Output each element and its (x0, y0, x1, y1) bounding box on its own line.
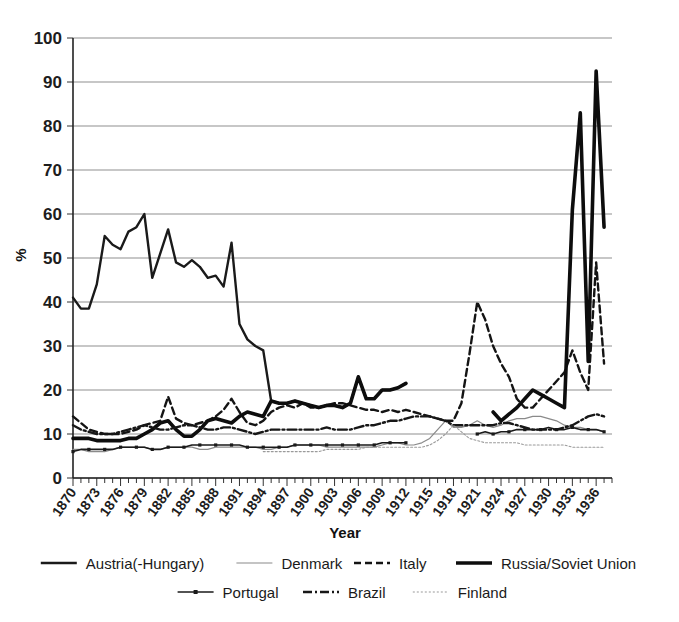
series-marker-portugal (293, 443, 296, 446)
y-tick-label-100: 100 (34, 29, 62, 48)
chart-container: 0102030405060708090100 18701873187618791… (0, 0, 679, 622)
legend-label-russia-soviet-union: Russia/Soviet Union (501, 555, 636, 572)
series-marker-portugal (214, 443, 217, 446)
series-marker-portugal (373, 443, 376, 446)
legend-label-denmark: Denmark (281, 555, 342, 572)
legend-label-portugal: Portugal (223, 584, 279, 601)
series-marker-portugal (325, 443, 328, 446)
series-marker-portugal (87, 448, 90, 451)
series-marker-portugal (119, 446, 122, 449)
legend-label-brazil: Brazil (348, 584, 386, 601)
series-marker-portugal (151, 448, 154, 451)
series-marker-portugal (507, 430, 510, 433)
series-marker-portugal (182, 446, 185, 449)
y-tick-label-10: 10 (43, 425, 62, 444)
series-marker-portugal (230, 443, 233, 446)
legend-marker (194, 590, 198, 594)
series-marker-portugal (246, 446, 249, 449)
y-tick-label-90: 90 (43, 73, 62, 92)
y-tick-label-70: 70 (43, 161, 62, 180)
series-marker-portugal (277, 446, 280, 449)
x-axis-label: Year (329, 524, 361, 541)
series-marker-portugal (404, 441, 407, 444)
y-tick-label-60: 60 (43, 205, 62, 224)
y-axis-label: % (12, 248, 29, 261)
y-tick-label-80: 80 (43, 117, 62, 136)
series-marker-portugal (492, 432, 495, 435)
series-marker-portugal (198, 443, 201, 446)
y-tick-label-0: 0 (53, 469, 62, 488)
series-marker-portugal (587, 428, 590, 431)
y-tick-label-30: 30 (43, 337, 62, 356)
series-marker-portugal (476, 432, 479, 435)
series-marker-portugal (341, 443, 344, 446)
series-marker-portugal (167, 446, 170, 449)
series-marker-portugal (602, 430, 605, 433)
y-tick-label-20: 20 (43, 381, 62, 400)
series-marker-portugal (388, 441, 391, 444)
series-marker-portugal (262, 446, 265, 449)
legend-label-italy: Italy (399, 555, 427, 572)
line-chart: 0102030405060708090100 18701873187618791… (0, 0, 679, 622)
series-marker-portugal (357, 443, 360, 446)
series-marker-portugal (103, 448, 106, 451)
series-marker-portugal (309, 443, 312, 446)
series-marker-portugal (71, 450, 74, 453)
legend-label-finland: Finland (458, 584, 507, 601)
series-marker-portugal (135, 446, 138, 449)
y-tick-label-50: 50 (43, 249, 62, 268)
y-tick-label-40: 40 (43, 293, 62, 312)
legend-label-austria-hungary: Austria(-Hungary) (86, 555, 204, 572)
